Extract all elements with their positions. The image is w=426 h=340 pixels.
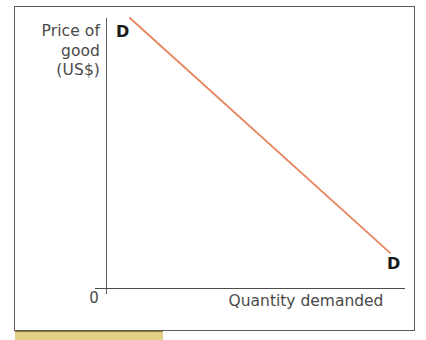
x-axis-label: Quantity demanded: [206, 291, 406, 311]
quantity-axis: [95, 288, 405, 289]
y-axis-label-line-2: good: [12, 42, 100, 62]
demand-curve-label-top: D: [116, 24, 129, 40]
origin-label: 0: [86, 289, 102, 307]
y-axis-label-line-1: Price of: [12, 22, 100, 42]
y-axis-label-line-3: (US$): [12, 61, 100, 81]
footer-color-swatch: [15, 331, 163, 340]
price-axis: [106, 18, 107, 294]
y-axis-label: Price of good (US$): [12, 22, 100, 81]
demand-curve-label-bottom: D: [387, 256, 400, 272]
